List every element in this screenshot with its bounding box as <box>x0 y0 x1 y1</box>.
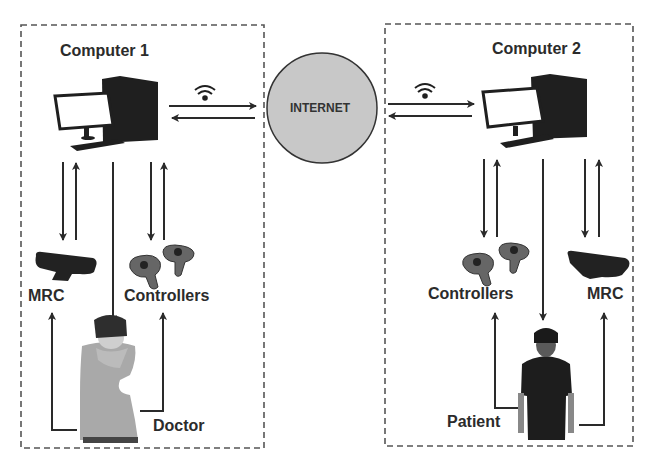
arrow-patient-to-mrc <box>579 313 604 425</box>
diagram-canvas <box>0 0 660 471</box>
patient-label: Patient <box>447 413 500 431</box>
vr-controllers-icon <box>463 243 529 286</box>
doctor-label: Doctor <box>153 417 205 435</box>
computer-2-group-box <box>385 24 633 446</box>
patient-vr-headset-person-icon <box>518 328 574 440</box>
internet-label: INTERNET <box>290 101 350 115</box>
controllers-label-left: Controllers <box>124 287 209 305</box>
computer-2-title: Computer 2 <box>492 40 581 58</box>
mrc-label-left: MRC <box>28 287 64 305</box>
arrow-doctor-to-mrc <box>52 313 77 430</box>
desktop-computer-icon <box>55 76 158 151</box>
vr-controllers-icon <box>130 245 194 289</box>
mrc-label-right: MRC <box>587 285 623 303</box>
depth-camera-icon <box>568 251 630 279</box>
controllers-label-right: Controllers <box>428 285 513 303</box>
computer-1-title: Computer 1 <box>60 42 149 60</box>
arrow-doctor-to-controllers <box>140 313 163 411</box>
arrow-patient-to-controllers <box>495 313 519 408</box>
desktop-computer-icon <box>483 74 587 148</box>
depth-camera-icon <box>36 252 97 281</box>
doctor-vr-headset-person-icon <box>80 315 138 443</box>
wifi-icon <box>195 86 215 100</box>
wifi-icon <box>415 84 435 98</box>
